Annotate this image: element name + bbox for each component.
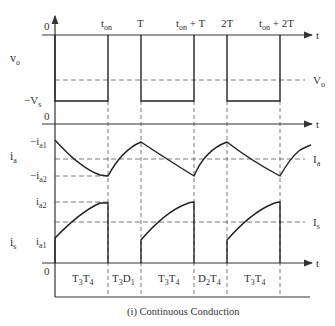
is-panel: t 0 is ia2 ia1 Is <box>10 195 320 277</box>
t-on-plus-2T-label: ton + 2T <box>259 17 294 32</box>
ia-axis-t-label: t <box>316 118 319 130</box>
ia-average-label: Ia <box>313 153 321 168</box>
top-time-labels: 0 ton T ton + T 2T ton + 2T <box>44 17 294 32</box>
is-axis-t-label: t <box>316 257 319 269</box>
vo-waveform <box>55 35 280 101</box>
neg-ia1-label: −ia1 <box>30 135 47 150</box>
ia-zero-label: 0 <box>44 110 50 122</box>
vo-label: vo <box>10 51 20 67</box>
is-waveform <box>55 202 280 263</box>
interval-3: T3T4 <box>158 272 179 287</box>
figure-caption: (i) Continuous Conduction <box>127 306 240 318</box>
interval-4: D2T4 <box>198 272 221 287</box>
vo-zero-label: 0 <box>44 20 50 32</box>
is-average-label: Is <box>313 216 320 231</box>
vo-axis-t-label: t <box>316 29 319 41</box>
t-on-label: ton <box>101 17 112 32</box>
T-label: T <box>137 17 144 29</box>
conduction-interval-labels: T3T4 T3D1 T3T4 D2T4 T3T4 <box>72 272 265 287</box>
neg-vs-label: −Vs <box>24 94 41 109</box>
time-markers <box>108 101 280 297</box>
interval-2: T3D1 <box>112 272 135 287</box>
ia-waveform <box>55 140 311 176</box>
vo-average-label: Vo <box>313 74 325 89</box>
continuous-conduction-waveform-diagram: 0 ton T ton + T 2T ton + 2T t vo −Vs Vo … <box>0 0 335 326</box>
interval-1: T3T4 <box>72 272 93 287</box>
vo-panel: t vo −Vs Vo <box>10 29 325 109</box>
2T-label: 2T <box>221 17 234 29</box>
t-on-plus-T-label: ton + T <box>176 17 206 32</box>
is-zero-label: 0 <box>44 265 50 277</box>
neg-ia2-label: −ia2 <box>30 169 47 184</box>
ia2-label: ia2 <box>36 195 47 210</box>
is-label: is <box>10 235 16 251</box>
ia1-label: ia1 <box>36 235 47 250</box>
interval-5: T3T4 <box>244 272 265 287</box>
ia-panel: t 0 ia −ia1 −ia2 Ia <box>10 110 321 184</box>
ia-label: ia <box>10 149 17 165</box>
